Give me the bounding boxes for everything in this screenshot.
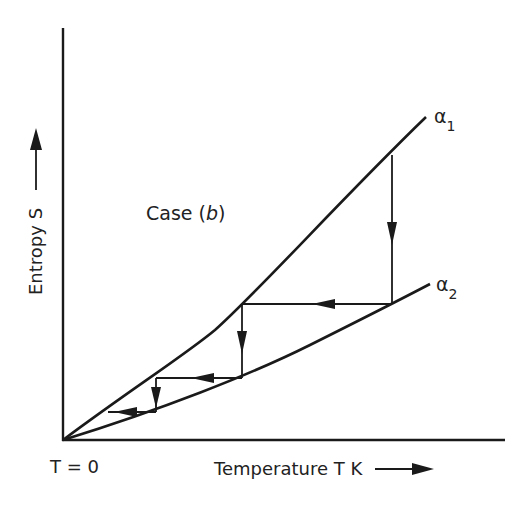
curve-alpha1: [63, 117, 426, 440]
curve2-label: α2: [436, 273, 457, 302]
origin-label: T = 0: [49, 456, 99, 477]
arrow-down-icon: [387, 222, 397, 245]
arrow-down-icon: [237, 331, 247, 354]
y-arrowhead-icon: [30, 128, 42, 150]
entropy-temperature-diagram: Case (b) α1 α2 Entropy S T = 0 Temperatu…: [0, 0, 528, 507]
arrow-left-icon: [114, 407, 137, 417]
arrow-down-icon: [151, 387, 161, 408]
x-axis-title: Temperature T K: [213, 458, 363, 479]
arrow-left-icon: [312, 299, 335, 309]
arrow-left-icon: [191, 373, 214, 383]
y-axis-title: Entropy S: [25, 208, 46, 295]
x-arrowhead-icon: [412, 463, 434, 475]
case-label: Case (b): [146, 202, 225, 224]
curve-alpha2: [63, 284, 430, 440]
svg-text:Entropy S: Entropy S: [25, 208, 46, 295]
curve1-label: α1: [434, 105, 455, 134]
arrowheads: [114, 222, 397, 417]
